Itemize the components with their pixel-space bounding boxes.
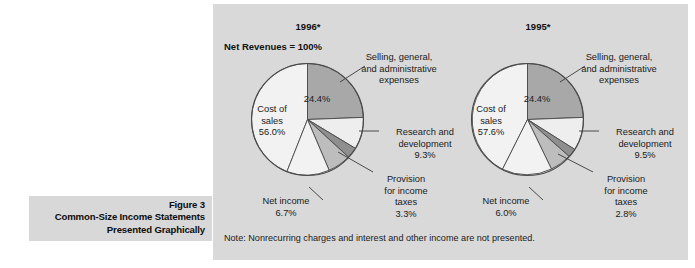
label-line: Research and bbox=[600, 127, 690, 139]
label-value: 6.7% bbox=[248, 208, 324, 220]
label-value: 9.5% bbox=[600, 150, 690, 162]
figure-panel: 1996* 1995* Net Revenues = 100% bbox=[213, 4, 688, 260]
figure-caption-line-1: Figure 3 bbox=[33, 199, 205, 211]
label-value: 56.0% bbox=[241, 127, 303, 139]
label-line: sales bbox=[241, 116, 303, 128]
figure-caption-line-3: Presented Graphically bbox=[33, 224, 205, 236]
pie-label-net-income-1996: Net income 6.7% bbox=[248, 196, 324, 219]
label-line: expenses bbox=[563, 75, 675, 87]
pie-label-cost-of-sales-1995: Cost of sales 57.6% bbox=[460, 104, 522, 139]
figure-note: Note: Nonrecurring charges and interest … bbox=[224, 233, 535, 243]
pie-label-cost-of-sales-1996: Cost of sales 56.0% bbox=[241, 104, 303, 139]
pie-label-sga-1995: Selling, general, and administrative exp… bbox=[563, 52, 675, 87]
label-line: Net income bbox=[248, 196, 324, 208]
label-line: for income bbox=[588, 186, 664, 198]
label-line: Cost of bbox=[460, 104, 522, 116]
pie-value-sga-1996: 24.4% bbox=[296, 94, 338, 106]
pie-label-sga-1996: Selling, general, and administrative exp… bbox=[343, 52, 455, 87]
pie-value-sga-1995: 24.4% bbox=[516, 94, 558, 106]
label-line: for income bbox=[368, 186, 444, 198]
label-line: Net income bbox=[468, 196, 544, 208]
pie-label-provision-1996: Provision for income taxes 3.3% bbox=[368, 174, 444, 220]
label-value: 57.6% bbox=[460, 127, 522, 139]
pie-title-1995: 1995* bbox=[443, 21, 633, 32]
net-revenues-label: Net Revenues = 100% bbox=[224, 41, 322, 52]
label-line: Provision bbox=[588, 174, 664, 186]
label-line: Cost of bbox=[241, 104, 303, 116]
pie-label-rnd-1995: Research and development 9.5% bbox=[600, 127, 690, 162]
label-value: 9.3% bbox=[380, 150, 470, 162]
label-value: 3.3% bbox=[368, 209, 444, 221]
label-line: development bbox=[600, 139, 690, 151]
figure-caption: Figure 3 Common-Size Income Statements P… bbox=[33, 199, 205, 236]
label-line: taxes bbox=[588, 197, 664, 209]
figure-caption-band: Figure 3 Common-Size Income Statements P… bbox=[29, 196, 212, 241]
figure-caption-line-2: Common-Size Income Statements bbox=[33, 211, 205, 223]
label-line: and administrative bbox=[343, 64, 455, 76]
label-line: Provision bbox=[368, 174, 444, 186]
label-value: 6.0% bbox=[468, 208, 544, 220]
label-line: sales bbox=[460, 116, 522, 128]
label-line: Research and bbox=[380, 127, 470, 139]
label-line: and administrative bbox=[563, 64, 675, 76]
label-line: development bbox=[380, 139, 470, 151]
pie-label-net-income-1995: Net income 6.0% bbox=[468, 196, 544, 219]
label-line: expenses bbox=[343, 75, 455, 87]
pie-label-rnd-1996: Research and development 9.3% bbox=[380, 127, 470, 162]
label-line: Selling, general, bbox=[563, 52, 675, 64]
label-line: Selling, general, bbox=[343, 52, 455, 64]
label-line: taxes bbox=[368, 197, 444, 209]
pie-label-provision-1995: Provision for income taxes 2.8% bbox=[588, 174, 664, 220]
pie-title-1996: 1996* bbox=[213, 21, 403, 32]
label-value: 2.8% bbox=[588, 209, 664, 221]
